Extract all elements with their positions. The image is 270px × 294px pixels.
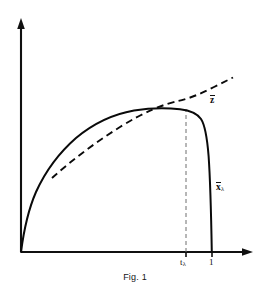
- figure-container: tλ 1 z xλ Fig. 1: [0, 0, 270, 294]
- z-bar-base: z: [210, 96, 214, 106]
- plot-canvas: [0, 0, 270, 294]
- axis-tick-label-one: 1: [209, 258, 214, 267]
- y-axis-arrowhead-icon: [17, 18, 25, 29]
- curve-label-x-bar-lambda: xλ: [216, 183, 224, 193]
- axis-tick-label-t-lambda: tλ: [180, 258, 186, 268]
- tick-one-base: 1: [209, 257, 214, 267]
- x-bar-base: x: [216, 183, 221, 193]
- x-axis-arrowhead-icon: [242, 248, 253, 256]
- curve-z-bar: [52, 78, 233, 179]
- figure-caption: Fig. 1: [0, 273, 270, 282]
- curve-label-z-bar: z: [210, 96, 214, 106]
- x-bar-subscript: λ: [221, 185, 224, 192]
- tick-t-subscript: λ: [183, 260, 186, 267]
